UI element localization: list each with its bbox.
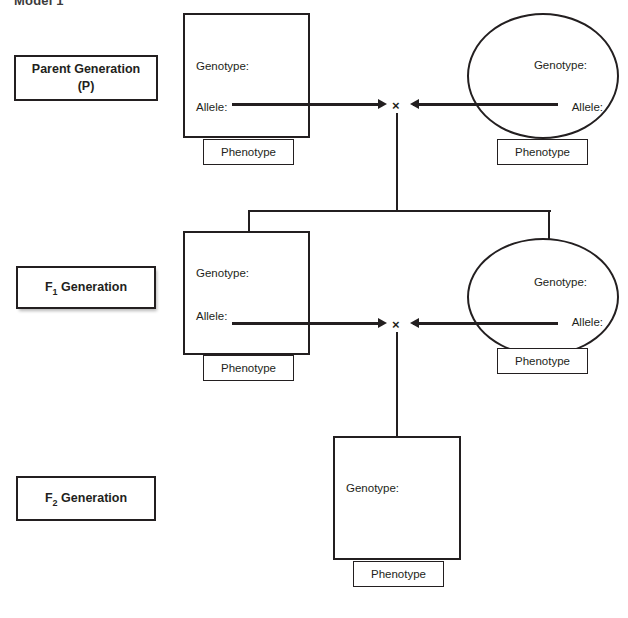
- parent-female-allele-label: Allele:: [572, 101, 603, 113]
- parent-male-phenotype-label: Phenotype: [221, 146, 276, 158]
- f1-male-arrow-icon: [378, 318, 387, 328]
- parent-female-genotype-label: Genotype:: [534, 59, 587, 71]
- parent-female-allele-rule: [413, 103, 558, 106]
- figure-title: Model 1: [14, 0, 64, 8]
- parent-female-symbol[interactable]: Genotype: Allele:: [467, 13, 619, 139]
- f1-male-allele-rule: [232, 322, 382, 325]
- parent-female-phenotype-box[interactable]: Phenotype: [497, 139, 588, 165]
- f2-offspring-phenotype-box[interactable]: Phenotype: [353, 561, 444, 587]
- parent-female-arrow-icon: [410, 99, 419, 109]
- generation-label-f1: F1 Generation: [16, 266, 156, 309]
- f1-female-allele-label: Allele:: [572, 316, 603, 328]
- f1-female-allele-rule: [413, 322, 558, 325]
- f1-female-phenotype-label: Phenotype: [515, 355, 570, 367]
- f1-descent-line: [396, 332, 398, 436]
- f1-male-allele-label: Allele:: [196, 310, 227, 322]
- parent-male-arrow-icon: [378, 99, 387, 109]
- f1-cross-symbol: ×: [392, 318, 400, 331]
- generation-label-f1-prefix: F: [45, 280, 53, 294]
- generation-label-f2-suffix: Generation: [58, 491, 127, 505]
- f2-offspring-phenotype-label: Phenotype: [371, 568, 426, 580]
- generation-label-parent-line1: Parent Generation: [32, 62, 140, 76]
- parent-female-phenotype-label: Phenotype: [515, 146, 570, 158]
- f1-female-symbol[interactable]: Genotype: Allele:: [467, 238, 619, 356]
- parent-male-phenotype-box[interactable]: Phenotype: [203, 139, 294, 165]
- generation-label-parent-line2: (P): [78, 79, 95, 93]
- parent-male-allele-rule: [232, 103, 382, 106]
- f1-female-phenotype-box[interactable]: Phenotype: [497, 348, 588, 374]
- f1-male-genotype-label: Genotype:: [196, 267, 249, 279]
- parent-descent-line: [396, 113, 398, 212]
- parent-male-allele-label: Allele:: [196, 101, 227, 113]
- f2-offspring-symbol[interactable]: Genotype:: [333, 436, 461, 560]
- f1-bracket-left-drop: [248, 210, 250, 232]
- f1-male-symbol[interactable]: Genotype: Allele:: [183, 231, 310, 355]
- generation-label-f2-prefix: F: [45, 491, 53, 505]
- f2-offspring-genotype-label: Genotype:: [346, 482, 399, 494]
- generation-label-f1-suffix: Generation: [58, 280, 127, 294]
- generation-label-f2: F2 Generation: [16, 476, 156, 521]
- parent-male-symbol[interactable]: Genotype: Allele:: [183, 13, 310, 138]
- f1-male-phenotype-label: Phenotype: [221, 362, 276, 374]
- parent-cross-symbol: ×: [392, 99, 400, 112]
- generation-label-parent: Parent Generation (P): [14, 55, 158, 101]
- f1-bracket-horizontal: [248, 210, 551, 212]
- f1-female-genotype-label: Genotype:: [534, 276, 587, 288]
- f1-bracket-right-drop: [548, 210, 550, 240]
- genetics-cross-diagram: Model 1 Parent Generation (P) Genotype: …: [0, 0, 628, 618]
- f1-female-arrow-icon: [410, 318, 419, 328]
- parent-male-genotype-label: Genotype:: [196, 60, 249, 72]
- f1-male-phenotype-box[interactable]: Phenotype: [203, 355, 294, 381]
